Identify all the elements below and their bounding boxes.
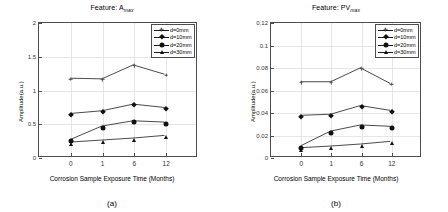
marker-triangle: [390, 141, 394, 145]
legend-marker-sample: [378, 49, 393, 57]
marker-asterisk: [360, 67, 363, 70]
marker-triangle: [160, 50, 164, 54]
marker-asterisk: [133, 64, 136, 67]
y-tick-mark: [39, 158, 42, 159]
x-tick-label: 12: [388, 160, 395, 167]
y-tick-label: 0.04: [256, 110, 268, 116]
y-tick-label: 0: [33, 155, 36, 161]
series-line-d=0mm: [301, 68, 390, 84]
legend-item-d=30mm[interactable]: d=30mm: [378, 49, 416, 57]
legend-label: d=10mm: [169, 34, 192, 40]
y-tick-label: 0.06: [256, 88, 268, 94]
marker-triangle: [299, 148, 303, 152]
x-axis-label-a: Corrosion Sample Exposure Time (Months): [0, 175, 224, 182]
marker-triangle: [360, 144, 364, 148]
legend-label: d=0mm: [393, 27, 413, 33]
series-line-d=30mm: [71, 135, 165, 142]
marker-triangle: [384, 50, 388, 54]
marker-circle: [132, 120, 137, 125]
marker-triangle: [101, 140, 105, 144]
y-tick-label: 0: [265, 155, 268, 161]
legend-label: d=10mm: [393, 34, 416, 40]
legend-a: d=0mmd=10mmd=20mmd=30mm: [151, 24, 195, 58]
legend-item-d=10mm[interactable]: d=10mm: [154, 34, 192, 42]
marker-diamond: [158, 34, 164, 40]
legend-label: d=0mm: [169, 27, 189, 33]
marker-circle: [329, 130, 334, 135]
legend-label: d=30mm: [169, 49, 192, 55]
legend-item-d=30mm[interactable]: d=30mm: [154, 49, 192, 57]
legend-marker-sample: [154, 34, 169, 42]
x-tick-label: 12: [163, 160, 170, 167]
x-tick-label: 0: [69, 160, 73, 167]
x-tick-label: 0: [299, 160, 303, 167]
y-axis-label-a: Amplitude(a.u.): [18, 81, 24, 122]
x-tick-label: 1: [101, 160, 105, 167]
marker-asterisk: [101, 78, 104, 81]
legend-item-d=20mm[interactable]: d=20mm: [154, 41, 192, 49]
marker-asterisk: [384, 28, 387, 31]
legend-label: d=20mm: [393, 42, 416, 48]
marker-triangle: [69, 142, 73, 146]
y-tick-label: 0.08: [256, 65, 268, 71]
marker-asterisk: [160, 28, 163, 31]
chart-title-b-subscript: max: [350, 7, 360, 13]
y-tick-label: 1.5: [28, 54, 36, 60]
marker-circle: [164, 121, 169, 126]
marker-circle: [359, 124, 364, 129]
chart-title-a: Feature: Amax: [0, 4, 224, 13]
marker-circle: [159, 42, 164, 47]
marker-asterisk: [390, 83, 393, 86]
x-axis-label-b: Corrosion Sample Exposure Time (Months): [224, 175, 448, 182]
chart-title-a-subscript: max: [124, 7, 134, 13]
y-tick-label: 0.1: [260, 43, 268, 49]
legend-marker-sample: [154, 49, 169, 57]
legend-label: d=20mm: [169, 42, 192, 48]
chart-title-a-main: Feature: A: [90, 4, 123, 11]
x-tick-label: 1: [330, 160, 334, 167]
y-tick-label: 0.02: [256, 133, 268, 139]
panel-b: Feature: PVmax 00.020.040.060.080.10.120…: [224, 0, 448, 212]
marker-triangle: [132, 138, 136, 142]
marker-circle: [100, 125, 105, 130]
y-tick-mark: [271, 158, 274, 159]
caption-a: (a): [0, 199, 224, 208]
marker-asterisk: [299, 81, 302, 84]
chart-title-b-main: Feature: PV: [312, 4, 350, 11]
legend-item-d=20mm[interactable]: d=20mm: [378, 41, 416, 49]
panel-a: Feature: Amax 00.511.5201612 Amplitude(a…: [0, 0, 224, 212]
y-tick-label: 0.12: [256, 20, 268, 26]
marker-triangle: [329, 146, 333, 150]
series-line-d=10mm: [71, 104, 165, 113]
series-line-d=30mm: [301, 141, 390, 147]
figure-two-panel: Feature: Amax 00.511.5201612 Amplitude(a…: [0, 0, 448, 212]
legend-marker-sample: [378, 41, 393, 49]
legend-marker-sample: [378, 26, 393, 34]
legend-marker-sample: [154, 41, 169, 49]
x-tick-label: 6: [133, 160, 137, 167]
marker-circle: [383, 42, 388, 47]
marker-diamond: [382, 34, 388, 40]
marker-asterisk: [164, 73, 167, 76]
legend-marker-sample: [154, 26, 169, 34]
marker-circle: [389, 125, 394, 130]
series-line-d=10mm: [301, 106, 390, 116]
legend-item-d=0mm[interactable]: d=0mm: [378, 26, 416, 34]
chart-title-b: Feature: PVmax: [224, 4, 448, 13]
legend-item-d=10mm[interactable]: d=10mm: [378, 34, 416, 42]
legend-label: d=30mm: [393, 49, 416, 55]
marker-asterisk: [330, 81, 333, 84]
legend-marker-sample: [378, 34, 393, 42]
legend-item-d=0mm[interactable]: d=0mm: [154, 26, 192, 34]
y-axis-label-b: Amplitude(a.u.): [250, 81, 256, 122]
series-line-d=0mm: [71, 65, 165, 79]
marker-triangle: [164, 135, 168, 139]
legend-b: d=0mmd=10mmd=20mmd=30mm: [375, 24, 419, 58]
caption-b: (b): [224, 199, 448, 208]
y-tick-label: 2: [33, 20, 36, 26]
x-tick-label: 6: [360, 160, 364, 167]
y-tick-label: 1: [33, 88, 36, 94]
y-tick-label: 0.5: [28, 121, 36, 127]
marker-asterisk: [69, 77, 72, 80]
